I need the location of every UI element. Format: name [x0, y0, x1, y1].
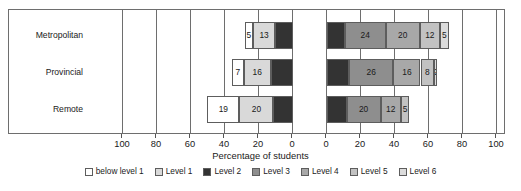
bar-segment-value: 13	[259, 31, 268, 40]
legend-swatch-icon	[301, 168, 309, 176]
bar-segment-value: 5	[442, 31, 447, 40]
legend-swatch-icon	[85, 168, 93, 176]
bar-segment: 7	[232, 59, 244, 86]
bar-segment-value: 20	[398, 31, 407, 40]
bar-segment: 12	[381, 96, 401, 123]
bar-segment-value: 5	[403, 105, 408, 114]
bar-segment: 12	[420, 22, 440, 49]
x-axis-tick-label: 40	[206, 139, 242, 149]
legend-item-level-4[interactable]: Level 4	[301, 167, 339, 176]
legend-item-level-5[interactable]: Level 5	[350, 167, 388, 176]
x-axis-tick-mark	[359, 134, 360, 138]
legend-swatch-icon	[399, 168, 407, 176]
bar-segment: 20	[386, 22, 420, 49]
bar-segment-value: 21	[275, 22, 345, 49]
legend-item-level-1[interactable]: Level 1	[155, 167, 193, 176]
x-axis-title: Percentage of students	[0, 150, 521, 161]
bar-segment-value: 8	[425, 68, 430, 77]
x-axis-tick-label: 60	[410, 139, 446, 149]
legend-label: Level 5	[361, 167, 388, 176]
legend-label: Level 4	[312, 167, 339, 176]
bar-segment: 16	[244, 59, 271, 86]
bar-segment: 13	[253, 22, 275, 49]
bar-segment: 8	[421, 59, 435, 86]
bar-segment: 24	[345, 22, 386, 49]
bar-row: 20192012523	[9, 96, 504, 123]
bar-segment: 5	[245, 22, 254, 49]
bar-segment: 5	[440, 22, 449, 49]
bar-segment: 16	[393, 59, 420, 86]
x-axis-tick-label: 40	[376, 139, 412, 149]
x-axis-tick-mark	[495, 134, 496, 138]
bar-segment: 20	[347, 96, 381, 123]
bar-segment-value: 26	[271, 59, 349, 86]
bar-segment-value: 12	[386, 105, 395, 114]
bar-row: 16726168226	[9, 59, 504, 86]
bar-segment-value: 5	[246, 31, 251, 40]
bar-row: 135242012521	[9, 22, 504, 49]
bar-segment: 19	[207, 96, 239, 123]
legend-label: Level 6	[410, 167, 437, 176]
bar-segment-value: 12	[425, 31, 434, 40]
legend-label: Level 3	[263, 167, 290, 176]
bar-segment-value: 7	[235, 68, 240, 77]
legend-item-level-6[interactable]: Level 6	[399, 167, 437, 176]
x-axis-tick-mark	[427, 134, 428, 138]
legend-label: Level 2	[214, 167, 241, 176]
x-axis-tick-mark	[393, 134, 394, 138]
plot-area: MetropolitanProvincialRemote 13524201252…	[8, 9, 505, 134]
x-axis-tick-mark	[189, 134, 190, 138]
bar-segment: 20	[239, 96, 273, 123]
x-axis-tick-label: 60	[172, 139, 208, 149]
bar-segment: 2	[434, 59, 437, 86]
x-axis-tick-label: 80	[138, 139, 174, 149]
x-axis-tick-mark	[155, 134, 156, 138]
x-axis-tick-mark	[291, 134, 292, 138]
bar-segment-value: 16	[253, 68, 262, 77]
bar-segment-value: 24	[361, 31, 370, 40]
bar-segment-value: 2	[434, 68, 437, 77]
bar-segment-value: 19	[219, 105, 228, 114]
legend-swatch-icon	[155, 168, 163, 176]
legend-label: below level 1	[96, 167, 144, 176]
legend-swatch-icon	[203, 168, 211, 176]
x-axis-tick-mark	[223, 134, 224, 138]
legend-item-level-3[interactable]: Level 3	[252, 167, 290, 176]
x-axis-tick-label: 20	[240, 139, 276, 149]
bar-segment-value: 20	[359, 105, 368, 114]
legend-swatch-icon	[350, 168, 358, 176]
legend-item-level-2[interactable]: Level 2	[203, 167, 241, 176]
x-axis-tick-label: 80	[444, 139, 480, 149]
x-axis-tick-label: 0	[274, 139, 310, 149]
bar-segment-value: 20	[252, 105, 261, 114]
x-axis-tick-label: 100	[478, 139, 514, 149]
chart-container: MetropolitanProvincialRemote 13524201252…	[0, 0, 521, 191]
x-axis-tick-mark	[121, 134, 122, 138]
bar-segment: 5	[401, 96, 410, 123]
chart-legend: below level 1Level 1Level 2Level 3Level …	[0, 167, 521, 176]
bar-segment-value: 23	[273, 96, 346, 123]
x-axis-tick-label: 20	[342, 139, 378, 149]
x-axis-tick-mark	[461, 134, 462, 138]
x-axis-tick-mark	[325, 134, 326, 138]
x-axis-tick-label: 100	[104, 139, 140, 149]
legend-swatch-icon	[252, 168, 260, 176]
bar-segment-value: 16	[402, 68, 411, 77]
legend-item-below-level-1[interactable]: below level 1	[85, 167, 144, 176]
legend-label: Level 1	[166, 167, 193, 176]
bar-segment-value: 26	[367, 68, 376, 77]
x-axis-tick-mark	[257, 134, 258, 138]
bar-segment: 26	[349, 59, 393, 86]
x-axis-tick-label: 0	[308, 139, 344, 149]
